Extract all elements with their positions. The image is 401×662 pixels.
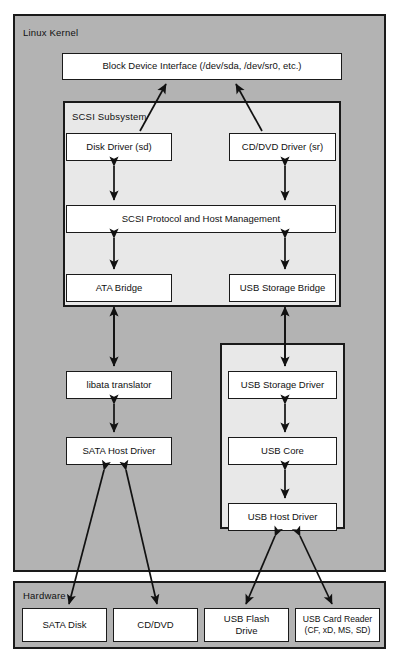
hw-sata-disk-node: SATA Disk — [22, 608, 107, 642]
libata-translator-node: libata translator — [66, 371, 172, 399]
block-device-interface-node: Block Device Interface (/dev/sda, /dev/s… — [62, 53, 342, 80]
disk-driver-node: Disk Driver (sd) — [66, 133, 172, 161]
hw-usb-flash-drive-line2: Drive — [235, 625, 257, 637]
ata-bridge-node: ATA Bridge — [66, 274, 172, 302]
hw-usb-flash-drive-line1: USB Flash — [224, 613, 269, 625]
cd-dvd-driver-node: CD/DVD Driver (sr) — [229, 133, 336, 161]
hw-usb-card-reader-line1: USB Card Reader — [303, 614, 372, 625]
hw-cd-dvd-line1: CD/DVD — [137, 619, 173, 631]
hw-usb-flash-drive-node: USB Flash Drive — [204, 608, 289, 642]
hw-sata-disk-line1: SATA Disk — [43, 619, 87, 631]
hw-cd-dvd-node: CD/DVD — [113, 608, 198, 642]
hw-usb-card-reader-line2: (CF, xD, MS, SD) — [305, 625, 371, 636]
hw-usb-card-reader-node: USB Card Reader (CF, xD, MS, SD) — [295, 608, 380, 642]
usb-core-node: USB Core — [228, 437, 337, 465]
linux-kernel-label: Linux Kernel — [23, 27, 78, 38]
diagram-canvas: Linux Kernel Block Device Interface (/de… — [0, 0, 401, 662]
usb-host-driver-node: USB Host Driver — [228, 503, 337, 531]
usb-storage-driver-node: USB Storage Driver — [228, 371, 337, 399]
scsi-subsystem-label: SCSI Subsystem — [72, 111, 147, 122]
sata-host-driver-node: SATA Host Driver — [66, 437, 172, 465]
scsi-protocol-node: SCSI Protocol and Host Management — [66, 205, 336, 233]
hardware-label: Hardware — [23, 590, 66, 601]
usb-storage-bridge-node: USB Storage Bridge — [229, 274, 336, 302]
